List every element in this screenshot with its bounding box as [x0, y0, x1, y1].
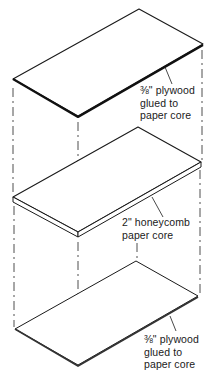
bottom-label-line-2: glued to: [144, 346, 199, 359]
top-label-line-3: paper core: [140, 109, 195, 122]
top-label-line-2: glued to: [140, 97, 195, 110]
middle-leader-line: [152, 197, 163, 217]
middle-label-line-2: paper core: [122, 229, 190, 242]
bottom-leader-line: [170, 316, 176, 331]
middle-layer-label: 2" honeycomb paper core: [122, 216, 190, 241]
bottom-label-line-3: paper core: [144, 358, 199, 371]
top-leader-line: [165, 67, 172, 84]
exploded-panel-diagram: [0, 0, 211, 380]
bottom-label-line-1: ⅜" plywood: [144, 333, 199, 346]
bottom-layer-label: ⅜" plywood glued to paper core: [144, 333, 199, 371]
middle-label-line-1: 2" honeycomb: [122, 216, 190, 229]
top-label-line-1: ⅜" plywood: [140, 84, 195, 97]
top-layer-label: ⅜" plywood glued to paper core: [140, 84, 195, 122]
